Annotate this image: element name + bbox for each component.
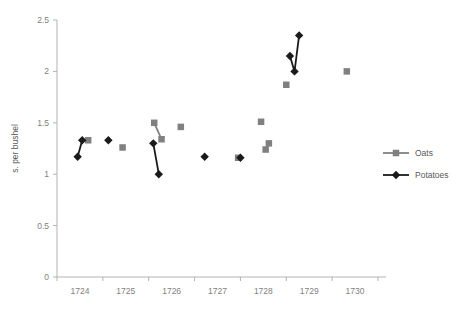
chart-canvas: 00.511.522.5 172417251726172717281729173… [0,0,465,313]
y-tick-label: 0 [44,272,49,282]
x-tick-label: 1728 [254,286,273,296]
chart-legend: OatsPotatoes [383,148,449,180]
data-point [266,140,273,147]
legend-label: Potatoes [415,170,449,180]
x-tick-label: 1724 [70,286,89,296]
series-potatoes [73,31,303,178]
data-point [151,120,158,127]
data-point [149,139,157,147]
data-point [283,82,290,89]
data-point [104,136,112,144]
data-point [344,68,351,75]
data-point [119,144,126,151]
data-point [290,67,298,75]
legend-item-oats[interactable]: Oats [383,148,433,158]
data-point [178,124,185,131]
legend-item-potatoes[interactable]: Potatoes [383,170,449,180]
y-tick-label: 2 [44,66,49,76]
y-tick-label: 1.5 [37,118,49,128]
data-point [73,153,81,161]
y-axis: 00.511.522.5 [37,15,57,282]
x-tick-label: 1727 [208,286,227,296]
x-tick-label: 1726 [162,286,181,296]
data-point [262,146,269,153]
data-point [295,31,303,39]
series-line [153,143,159,174]
chart-container: 00.511.522.5 172417251726172717281729173… [0,0,465,313]
data-point [155,170,163,178]
x-axis: 1724172517261727172817291730 [57,277,386,296]
x-tick-label: 1730 [346,286,365,296]
data-point [200,153,208,161]
data-series-group [73,31,350,178]
x-tick-label: 1729 [300,286,319,296]
legend-marker [393,150,400,157]
y-axis-title-label: s. per bushel [10,124,20,173]
data-point [158,136,165,143]
legend-marker [392,171,400,179]
x-tick-label: 1725 [116,286,135,296]
y-axis-title: s. per bushel [10,124,20,173]
series-oats [85,68,350,161]
legend-label: Oats [415,148,433,158]
data-point [258,119,265,126]
y-tick-label: 2.5 [37,15,49,25]
y-tick-label: 1 [44,169,49,179]
data-point [286,52,294,60]
y-tick-label: 0.5 [37,221,49,231]
